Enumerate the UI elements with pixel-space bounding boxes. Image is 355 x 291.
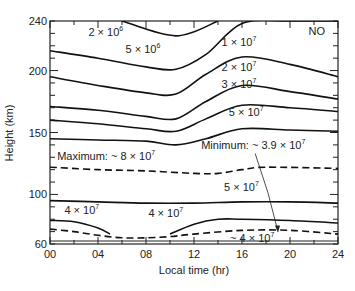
x-tick-label: 20 <box>284 248 296 260</box>
contour-line <box>50 167 338 174</box>
contour-label: 4 × 107 <box>148 206 183 219</box>
contour-chart: 0004081216202460100150200240 2 × 1065 × … <box>0 0 355 291</box>
contour-label: 5 × 107 <box>229 105 264 118</box>
contour-line <box>50 220 110 234</box>
contour-line <box>50 201 338 204</box>
species-label: NO <box>309 25 326 37</box>
y-tick-label: 240 <box>29 15 47 27</box>
contour-label: 5 × 107 <box>224 180 259 193</box>
contour-line <box>50 229 338 238</box>
y-axis-title: Height (km) <box>3 105 15 162</box>
contour-label: 1 × 107 <box>222 35 257 48</box>
y-tick-label: 200 <box>29 65 47 77</box>
x-tick-label: 24 <box>332 248 344 260</box>
axis-ticks: 0004081216202460100150200240 <box>29 15 344 260</box>
y-tick-label: 60 <box>35 238 47 250</box>
contour-label: ~ 4 × 107 <box>230 231 274 244</box>
x-tick-label: 08 <box>140 248 152 260</box>
contour-label: 2 × 106 <box>88 25 123 38</box>
contour-line <box>50 85 338 120</box>
contour-label: 5 × 106 <box>126 42 161 55</box>
y-tick-label: 100 <box>29 188 47 200</box>
contour-label: Minimum: ~ 3.9 × 107 <box>201 138 305 151</box>
contour-label: Maximum: ~ 8 × 107 <box>57 149 155 162</box>
chart-canvas: 0004081216202460100150200240 2 × 1065 × … <box>0 0 355 291</box>
x-tick-label: 04 <box>92 248 104 260</box>
contour-label: 2 × 107 <box>222 60 257 73</box>
contour-label: 3 × 107 <box>222 77 257 90</box>
contour-label: 4 × 107 <box>64 203 99 216</box>
x-axis-title: Local time (hr) <box>159 264 229 276</box>
x-tick-label: 12 <box>188 248 200 260</box>
y-tick-label: 150 <box>29 127 47 139</box>
x-tick-label: 16 <box>236 248 248 260</box>
